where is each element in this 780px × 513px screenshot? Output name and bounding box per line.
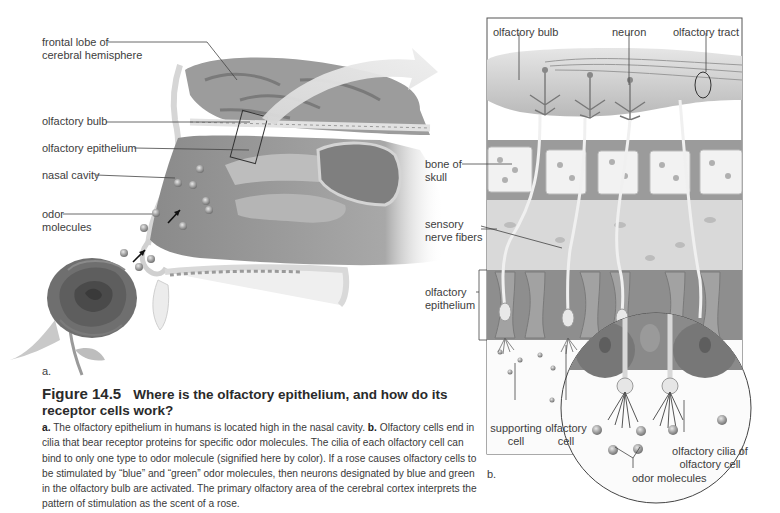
label-cilia-line1: olfactory cilia of (660, 445, 760, 458)
label-odor-line2: molecules (42, 221, 92, 234)
label-cilia-line2: olfactory cell (660, 458, 760, 471)
label-olfactory-cilia: olfactory cilia of olfactory cell (660, 445, 760, 471)
label-olfactory-epithelium-b: olfactory epithelium (425, 286, 475, 312)
label-frontal-lobe: frontal lobe of cerebral hemisphere (42, 36, 142, 62)
figure-number: Figure 14.5 (42, 385, 121, 402)
label-odor-line1: odor (42, 208, 92, 221)
rose-illustration (10, 258, 137, 375)
label-frontal-lobe-line2: cerebral hemisphere (42, 49, 142, 62)
label-epithelium-line2: epithelium (425, 299, 475, 312)
label-sensory-line1: sensory (425, 218, 482, 231)
label-odor-molecules-a: odor molecules (42, 208, 92, 234)
label-olfactory-bulb-a: olfactory bulb (42, 115, 107, 128)
caption-b-text: Olfactory cells end in cilia that bear r… (42, 422, 477, 509)
label-bone-of-skull: bone of skull (425, 158, 462, 184)
label-olfactory-bulb-b: olfactory bulb (493, 26, 558, 39)
label-supporting-cell: supporting cell (490, 422, 542, 448)
label-bone-line1: bone of (425, 158, 462, 171)
caption-b-marker: b. (368, 422, 377, 433)
label-supporting-line1: supporting (490, 422, 542, 435)
caption-a-marker: a. (42, 422, 51, 433)
label-odor-molecules-b: odor molecules (632, 472, 707, 485)
label-olfactory-cell: olfactory cell (543, 422, 589, 448)
label-olfcell-line1: olfactory (543, 422, 589, 435)
caption-a-text: The olfactory epithelium in humans is lo… (51, 422, 368, 433)
label-olfactory-tract: olfactory tract (673, 26, 739, 39)
panel-a-letter: a. (42, 365, 51, 378)
label-sensory-line2: nerve fibers (425, 231, 482, 244)
label-olfactory-epithelium-a: olfactory epithelium (42, 142, 137, 155)
label-bone-line2: skull (425, 171, 462, 184)
figure-caption: Figure 14.5Where is the olfactory epithe… (42, 386, 482, 512)
label-nasal-cavity: nasal cavity (42, 169, 99, 182)
caption-body: a. The olfactory epithelium in humans is… (42, 420, 482, 512)
label-sensory-nerve-fibers: sensory nerve fibers (425, 218, 482, 244)
head-section (120, 48, 444, 330)
label-neuron: neuron (612, 26, 646, 39)
label-olfcell-line2: cell (543, 435, 589, 448)
panel-b-letter: b. (487, 468, 496, 481)
label-frontal-lobe-line1: frontal lobe of (42, 36, 142, 49)
label-epithelium-line1: olfactory (425, 286, 475, 299)
caption-title: Figure 14.5Where is the olfactory epithe… (42, 386, 482, 419)
label-supporting-line2: cell (490, 435, 542, 448)
